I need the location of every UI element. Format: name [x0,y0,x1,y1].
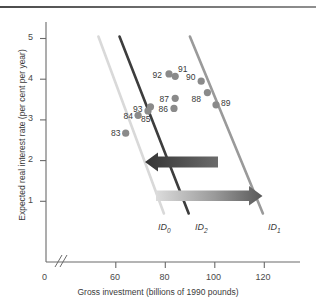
curve-label-id2-sub: 2 [204,227,208,234]
curve-label-id2-text: ID [195,222,204,232]
data-point-86 [170,105,177,112]
leftward-shift-arrow [145,153,218,172]
curve-label-id0-sub: 0 [167,227,171,234]
y-axis-title: Expected real interest rate (per cent pe… [17,25,27,245]
x-tick-label-0: 0 [42,272,47,282]
point-label-89: 89 [221,98,230,108]
x-axis-title: Gross investment (billions of 1990 pound… [0,287,316,297]
x-tick-label-80: 80 [160,272,170,282]
axis-break-marks [55,255,67,267]
chart-canvas [0,0,316,305]
data-point-90 [198,78,205,85]
y-tick-label-2: 2 [28,154,33,164]
data-point-88 [204,89,211,96]
investment-demand-chart: 5 4 3 2 1 0 60 80 100 120 83 84 93 85 86… [0,0,316,305]
point-label-88: 88 [192,94,201,104]
point-label-87: 87 [160,94,169,104]
point-label-86: 86 [159,104,168,114]
y-tick-label-3: 3 [28,113,33,123]
point-label-93: 93 [133,104,142,114]
curve-label-id0-text: ID [158,222,167,232]
data-point-92 [165,70,172,77]
data-point-87 [172,95,179,102]
rightward-shift-arrow [156,186,263,206]
y-tick-label-1: 1 [28,195,33,205]
point-label-84: 84 [124,111,133,121]
data-point-89 [212,101,219,108]
point-label-90: 90 [186,72,195,82]
x-tick-label-100: 100 [206,272,221,282]
x-tick-label-120: 120 [256,272,271,282]
y-tick-label-4: 4 [28,73,33,83]
curve-label-id1: ID1 [268,222,281,234]
x-tick-label-60: 60 [110,272,120,282]
curve-label-id2: ID2 [195,222,208,234]
data-point-85 [147,103,154,110]
point-label-85: 85 [141,114,150,124]
point-label-92: 92 [153,70,162,80]
point-label-83: 83 [111,128,120,138]
curve-label-id1-sub: 1 [277,227,281,234]
data-point-83 [122,130,129,137]
id1-curve [190,37,263,214]
y-tick-label-5: 5 [28,32,33,42]
curve-label-id1-text: ID [268,222,277,232]
curve-label-id0: ID0 [158,222,171,234]
